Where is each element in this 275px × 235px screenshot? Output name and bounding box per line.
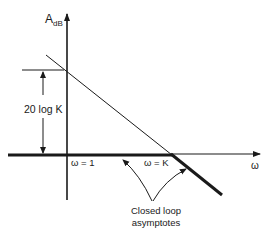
closed-loop-slope-asymptote [171, 154, 222, 195]
annotation-arrow-right [153, 169, 186, 201]
annotation-line-1: Closed loop [131, 205, 181, 216]
break-label-omega-k: ω = K [144, 157, 169, 168]
bode-diagram: AdB ω 20 log K ω = 1 ω = K Closed loop a… [0, 0, 275, 235]
y-axis-label: AdB [45, 12, 63, 28]
open-loop-asymptote [46, 55, 172, 155]
gain-label: 20 log K [24, 103, 63, 115]
x-axis-label: ω [251, 160, 259, 171]
annotation-line-2: asymptotes [132, 217, 181, 228]
break-label-omega-1: ω = 1 [71, 157, 95, 168]
